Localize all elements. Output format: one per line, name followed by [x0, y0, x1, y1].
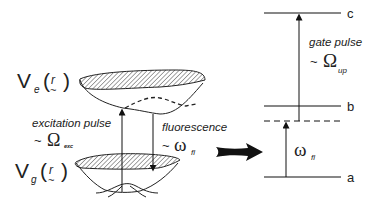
ground-wavepacket	[96, 184, 158, 193]
svg-text:g: g	[31, 174, 37, 185]
level-a: a	[264, 170, 355, 185]
ground-potential-label: V g ( r ~ )	[15, 159, 68, 186]
svg-text:a: a	[347, 170, 355, 185]
svg-text:up: up	[338, 66, 347, 75]
upconversion-diagram: V e ( r ~ ) V g ( r ~ ) excitation pulse…	[0, 0, 376, 213]
transition-arrow-icon	[216, 143, 263, 161]
fluorescence-label: fluorescence ~ ω fl	[162, 121, 227, 157]
svg-text:(: (	[40, 159, 47, 182]
svg-text:): )	[61, 159, 68, 182]
svg-text:fl: fl	[311, 153, 315, 162]
ground-hatched-band	[75, 154, 180, 169]
svg-text:~: ~	[50, 84, 56, 96]
svg-text:e: e	[34, 84, 40, 95]
svg-text:fluorescence: fluorescence	[162, 121, 227, 133]
svg-text:~: ~	[310, 54, 318, 69]
svg-text:V: V	[15, 159, 29, 182]
omega-fl-label: ω fl	[294, 139, 315, 162]
excitation-label: excitation pulse ~ Ω exc	[32, 117, 111, 150]
excited-dashed-curve	[125, 97, 196, 108]
level-c: c	[264, 6, 354, 21]
ground-potential-surface	[75, 154, 180, 197]
svg-text:~: ~	[34, 133, 42, 148]
excited-hatched-band	[80, 70, 205, 89]
svg-text:fl: fl	[191, 148, 195, 157]
svg-text:ω: ω	[174, 134, 187, 155]
svg-text:Ω: Ω	[323, 50, 337, 71]
svg-text:c: c	[347, 6, 354, 21]
level-b: b	[264, 99, 354, 114]
excited-potential-surface	[80, 70, 205, 114]
svg-text:ω: ω	[294, 139, 307, 160]
svg-text:~: ~	[48, 174, 54, 186]
svg-text:(: (	[43, 69, 50, 92]
svg-text:excitation pulse: excitation pulse	[32, 117, 111, 129]
excited-potential-label: V e ( r ~ )	[17, 69, 70, 96]
svg-text:exc: exc	[64, 143, 73, 149]
svg-text:V: V	[17, 69, 31, 92]
gate-pulse-label: gate pulse ~ Ω up	[309, 36, 362, 75]
svg-text:gate pulse: gate pulse	[309, 36, 362, 48]
svg-text:b: b	[347, 99, 354, 114]
svg-text:): )	[63, 69, 70, 92]
svg-text:~: ~	[162, 138, 170, 153]
svg-text:Ω: Ω	[47, 130, 60, 150]
